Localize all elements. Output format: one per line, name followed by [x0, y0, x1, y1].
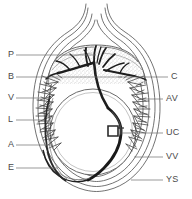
label-vv-vitelline-vessels: VV: [166, 152, 179, 161]
label-p-placenta: P: [8, 50, 14, 59]
label-a-allantois: A: [8, 140, 14, 149]
label-e-endometrium: E: [8, 163, 14, 172]
anatomical-figure: P B V L A E C AV UC VV YS: [0, 0, 192, 199]
label-b-blood-vessels: B: [8, 72, 14, 81]
label-av-allantoic-vessels: AV: [166, 94, 178, 103]
amniotic-sac: [50, 89, 136, 175]
label-l-lumen: L: [8, 115, 13, 124]
label-v-villi: V: [8, 93, 14, 102]
label-c-chorion: C: [171, 72, 178, 81]
label-uc-umbilical-cord: UC: [166, 128, 180, 137]
figure-drawing: [0, 0, 192, 199]
label-ys-yolk-sac: YS: [166, 175, 179, 184]
